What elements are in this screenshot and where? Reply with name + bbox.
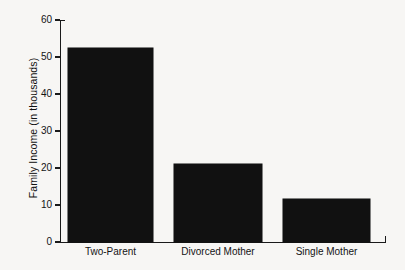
y-axis-top-cap (60, 20, 65, 21)
bar-chart-figure: Family Income (in thousands) 01020304050… (0, 0, 405, 270)
y-tick-mark (55, 56, 60, 57)
y-tick-label: 20 (12, 162, 52, 173)
x-axis-end-cap (385, 236, 386, 242)
bar (68, 48, 153, 242)
y-tick-mark (55, 93, 60, 94)
y-tick-mark (55, 130, 60, 131)
category-label: Single Mother (258, 246, 395, 257)
y-tick-label: 10 (12, 199, 52, 210)
y-tick-label: 60 (12, 14, 52, 25)
y-tick-label: 40 (12, 88, 52, 99)
bar (283, 199, 370, 242)
y-tick-label: 50 (12, 51, 52, 62)
y-tick-mark (55, 241, 60, 242)
y-axis-line (60, 20, 61, 243)
y-tick-label: 0 (12, 236, 52, 247)
y-tick-mark (55, 204, 60, 205)
y-tick-mark (55, 19, 60, 20)
y-tick-mark (55, 167, 60, 168)
bar (174, 164, 262, 242)
y-tick-label: 30 (12, 125, 52, 136)
